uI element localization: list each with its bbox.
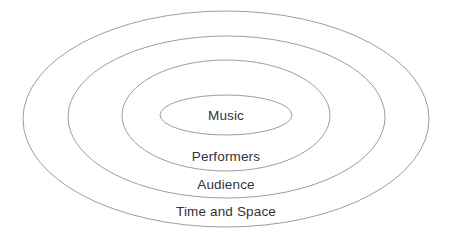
- concentric-ellipse-diagram: Music Performers Audience Time and Space: [0, 0, 452, 241]
- ring-label-time-and-space: Time and Space: [176, 204, 276, 219]
- ring-label-performers: Performers: [192, 149, 260, 164]
- ring-label-audience: Audience: [197, 177, 255, 192]
- diagram-canvas: Music Performers Audience Time and Space: [0, 0, 452, 241]
- ring-label-music: Music: [208, 108, 244, 123]
